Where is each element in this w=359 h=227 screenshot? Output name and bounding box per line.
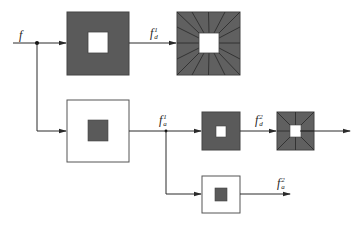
label-approx-2: f2a — [277, 177, 285, 191]
label-sub: a — [281, 184, 285, 191]
branch-line-lowpass-2 — [166, 131, 201, 194]
label-approx-1: f1a — [159, 114, 167, 128]
block-diagram — [0, 0, 359, 227]
label-input-f: f — [19, 29, 22, 41]
label-base: f — [19, 28, 22, 42]
highpass-block-2 — [202, 112, 240, 150]
label-sub: a — [163, 121, 167, 128]
highpass-block-1 — [67, 12, 129, 75]
label-detail-1: f1d — [150, 27, 158, 41]
label-base: f — [159, 113, 162, 127]
detail-spectrum-block-1 — [177, 12, 240, 75]
lowpass-block-2 — [202, 176, 240, 213]
label-base: f — [277, 176, 280, 190]
lowpass-block-1 — [67, 100, 129, 162]
label-sub: d — [154, 34, 158, 41]
label-detail-2: f2d — [255, 114, 263, 128]
label-sub: d — [259, 121, 263, 128]
branch-line-lowpass-1 — [37, 43, 66, 131]
label-base: f — [255, 113, 258, 127]
label-base: f — [150, 26, 153, 40]
